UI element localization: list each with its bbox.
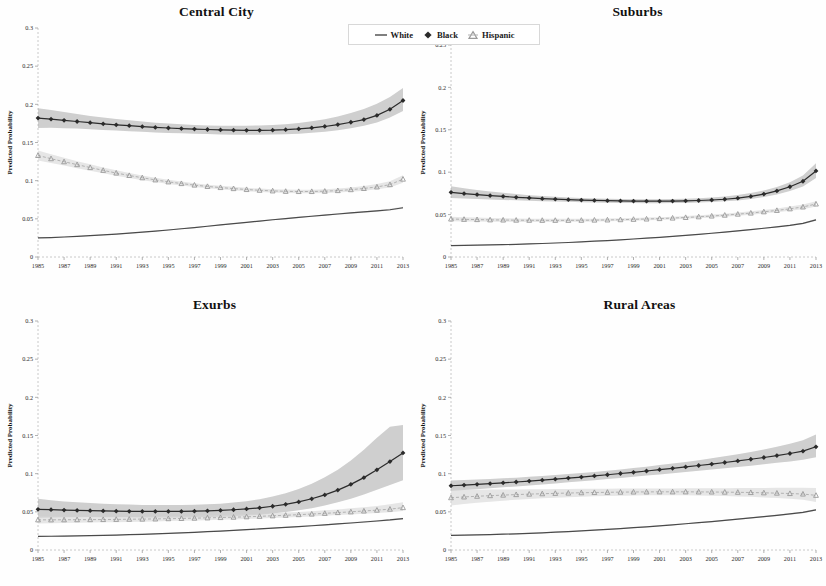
series-line-white (451, 510, 816, 535)
x-tick-label: 2003 (266, 555, 278, 562)
x-tick-label: 2013 (397, 262, 409, 269)
x-tick-label: 2001 (240, 262, 252, 269)
y-axis-title: Predicted Probability (419, 403, 427, 468)
x-tick-label: 1995 (162, 555, 174, 562)
y-tick-label: 0.05 (22, 508, 33, 515)
x-tick-label: 2013 (397, 555, 409, 562)
x-tick-label: 1989 (497, 262, 509, 269)
x-tick-label: 2001 (240, 555, 252, 562)
y-tick-label: 0.2 (438, 84, 446, 91)
y-tick-label: 0.05 (435, 508, 446, 515)
x-tick-label: 2003 (266, 262, 278, 269)
confidence-band-black (38, 425, 403, 518)
y-tick-label: 0.2 (438, 394, 446, 401)
x-tick-label: 1991 (523, 555, 535, 562)
y-axis-title: Predicted Probability (6, 403, 14, 468)
confidence-band-white (451, 509, 816, 536)
legend-entry-white: White (374, 30, 413, 40)
x-tick-label: 1989 (84, 262, 96, 269)
x-tick-label: 1993 (549, 262, 561, 269)
y-axis-title: Predicted Probability (6, 110, 14, 175)
y-tick-label: 0 (443, 546, 446, 553)
y-tick-label: 0.2 (25, 394, 33, 401)
x-tick-label: 2005 (293, 262, 305, 269)
x-tick-label: 2013 (810, 262, 822, 269)
series-line-white (451, 220, 816, 246)
line-icon (374, 30, 388, 40)
y-tick-label: 0.05 (22, 215, 33, 222)
y-tick-label: 0.15 (435, 126, 446, 133)
y-tick-label: 0.15 (22, 432, 33, 439)
y-tick-label: 0.25 (435, 355, 446, 362)
confidence-band-hispanic (38, 150, 403, 193)
confidence-band-white (451, 219, 816, 246)
legend-label-black: Black (437, 30, 458, 40)
y-tick-label: 0.2 (25, 101, 33, 108)
x-tick-label: 1997 (188, 262, 200, 269)
x-tick-label: 2007 (732, 262, 744, 269)
x-tick-label: 1993 (549, 555, 561, 562)
x-tick-label: 1999 (627, 262, 639, 269)
y-tick-label: 0.3 (438, 317, 446, 324)
x-tick-label: 1985 (32, 555, 44, 562)
x-tick-label: 1991 (110, 555, 122, 562)
plot-exurbs: 00.050.10.150.20.250.3Predicted Probabil… (0, 293, 413, 586)
x-tick-label: 2005 (706, 555, 718, 562)
series-line-white (38, 208, 403, 238)
x-tick-label: 2011 (371, 262, 383, 269)
y-tick-label: 0.15 (22, 139, 33, 146)
x-tick-label: 1995 (162, 262, 174, 269)
x-tick-label: 2001 (653, 555, 665, 562)
x-tick-label: 2011 (784, 262, 796, 269)
x-tick-label: 2013 (810, 555, 822, 562)
diamond-icon (422, 30, 434, 40)
x-tick-label: 1997 (601, 555, 613, 562)
four-panel-figure: Central City 00.050.10.150.20.250.3Predi… (0, 0, 826, 586)
y-tick-label: 0.25 (22, 355, 33, 362)
x-tick-label: 1995 (575, 262, 587, 269)
y-tick-label: 0.1 (25, 470, 33, 477)
x-tick-label: 1985 (32, 262, 44, 269)
x-tick-label: 1987 (58, 262, 70, 269)
plot-rural-areas: 00.050.10.150.20.250.3Predicted Probabil… (413, 293, 826, 586)
x-tick-label: 1997 (601, 262, 613, 269)
y-axis-title: Predicted Probability (419, 110, 427, 175)
x-tick-label: 1999 (214, 555, 226, 562)
x-tick-label: 2011 (784, 555, 796, 562)
confidence-band-white (38, 207, 403, 239)
y-tick-label: 0.3 (25, 24, 33, 31)
x-tick-label: 2007 (319, 262, 331, 269)
legend-entry-black: Black (422, 30, 458, 40)
series-line-hispanic (451, 204, 816, 220)
y-tick-label: 0.05 (435, 211, 446, 218)
legend-label-white: White (391, 30, 413, 40)
x-tick-label: 1991 (110, 262, 122, 269)
legend-entry-hispanic: Hispanic (467, 30, 514, 40)
y-tick-label: 0.1 (438, 168, 446, 175)
y-tick-label: 0 (30, 253, 33, 260)
x-tick-label: 1991 (523, 262, 535, 269)
x-tick-label: 1993 (136, 262, 148, 269)
panel-rural-areas: Rural Areas 00.050.10.150.20.250.3Predic… (413, 293, 826, 586)
legend-label-hispanic: Hispanic (482, 30, 514, 40)
x-tick-label: 1997 (188, 555, 200, 562)
y-tick-label: 0 (443, 253, 446, 260)
x-tick-label: 2009 (758, 555, 770, 562)
x-tick-label: 1993 (136, 555, 148, 562)
chart-legend: White Black Hispanic (348, 24, 540, 45)
y-tick-label: 0.15 (435, 432, 446, 439)
x-tick-label: 2009 (345, 555, 357, 562)
x-tick-label: 2009 (758, 262, 770, 269)
x-tick-label: 1989 (84, 555, 96, 562)
x-tick-label: 2005 (293, 555, 305, 562)
x-tick-label: 1985 (445, 262, 457, 269)
x-tick-label: 1999 (627, 555, 639, 562)
y-tick-label: 0.1 (438, 470, 446, 477)
y-tick-label: 0.1 (25, 177, 33, 184)
panel-exurbs: Exurbs 00.050.10.150.20.250.3Predicted P… (0, 293, 413, 586)
x-tick-label: 1985 (445, 555, 457, 562)
triangle-icon (467, 30, 479, 40)
x-tick-label: 1989 (497, 555, 509, 562)
x-tick-label: 2007 (732, 555, 744, 562)
x-tick-label: 1999 (214, 262, 226, 269)
